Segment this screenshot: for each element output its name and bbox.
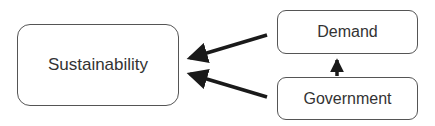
sustainability-node: Sustainability (17, 24, 179, 106)
government-node: Government (277, 77, 418, 120)
sustainability-label: Sustainability (48, 55, 148, 75)
demand-node: Demand (277, 10, 418, 54)
arrow-demand-to-sustainability (190, 35, 267, 58)
arrow-government-to-sustainability (190, 74, 267, 97)
demand-label: Demand (317, 23, 377, 41)
government-label: Government (303, 90, 391, 108)
